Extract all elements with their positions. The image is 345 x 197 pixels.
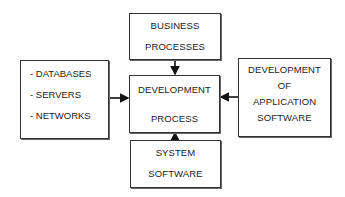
box-label: SOFTWARE <box>131 168 220 179</box>
box-label: DEVELOPMENT <box>239 64 330 75</box>
box-label: APPLICATION <box>239 96 330 107</box>
list-item: - NETWORKS <box>30 110 91 121</box>
box-label: SYSTEM <box>131 147 220 158</box>
application-software-box: DEVELOPMENT OF APPLICATION SOFTWARE <box>238 58 331 137</box>
box-label: OF <box>239 80 330 91</box>
list-item: - DATABASES <box>30 68 91 79</box>
business-processes-box: BUSINESS PROCESSES <box>129 13 221 60</box>
infrastructure-box: - DATABASES - SERVERS - NETWORKS <box>20 60 109 139</box>
box-label: PROCESSES <box>130 41 220 52</box>
box-label: BUSINESS <box>130 20 220 31</box>
development-process-box: DEVELOPMENT PROCESS <box>129 75 220 133</box>
box-label: DEVELOPMENT <box>130 84 219 95</box>
box-label: SOFTWARE <box>239 112 330 123</box>
list-item: - SERVERS <box>30 89 81 100</box>
box-label: PROCESS <box>130 113 219 124</box>
system-software-box: SYSTEM SOFTWARE <box>130 140 221 188</box>
